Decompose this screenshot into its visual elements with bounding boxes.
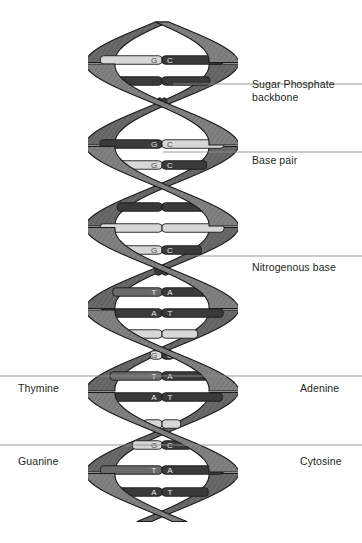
label-base-pair: Base pair <box>252 154 297 167</box>
base-letter-right: T <box>168 488 173 497</box>
label-thymine: Thymine <box>18 382 59 395</box>
base-letter-left: G <box>151 140 157 149</box>
base-letter-right: A <box>167 372 173 381</box>
dna-diagram-canvas: GCGCGCGCTAATGCTAATGCTAAT Sugar Phosphate… <box>0 0 362 543</box>
base-letter-left: T <box>152 372 157 381</box>
base-letter-right: A <box>167 288 173 297</box>
label-cytosine: Cytosine <box>300 455 342 468</box>
base-pair-rung: TA <box>100 466 223 475</box>
base-letter-left: T <box>152 288 157 297</box>
base-half-right <box>162 420 181 429</box>
base-letter-left: G <box>151 441 157 450</box>
base-letter-left: G <box>151 161 157 170</box>
base-letter-right: C <box>167 441 173 450</box>
base-letter-left: A <box>151 309 157 318</box>
base-pair-rung: GC <box>100 56 223 65</box>
base-letter-right: T <box>168 309 173 318</box>
base-pair-rung-unlabeled <box>100 224 224 233</box>
base-letter-right: C <box>167 246 173 255</box>
base-letter-right: C <box>167 56 173 65</box>
base-pair-rung: GC <box>100 140 224 149</box>
base-letter-right: A <box>167 466 173 475</box>
base-letter-left: T <box>152 466 157 475</box>
base-half-right <box>162 330 198 339</box>
base-letter-left: G <box>151 246 157 255</box>
base-letter-right: T <box>168 393 173 402</box>
base-pair-rung: AT <box>101 309 224 318</box>
base-letter-left: A <box>151 488 157 497</box>
label-nitrogenous-base: Nitrogenous base <box>252 261 336 274</box>
backbone-ribbon-segment-front <box>85 474 187 522</box>
base-letter-left: G <box>151 56 157 65</box>
base-letter-right: C <box>167 161 173 170</box>
base-pair-rung: AT <box>102 393 223 402</box>
label-sugar-phosphate-backbone: Sugar Phosphate backbone <box>252 78 335 103</box>
label-adenine: Adenine <box>300 382 339 395</box>
base-letter-left: G <box>151 351 157 360</box>
base-half-left <box>117 203 162 212</box>
base-letter-left: A <box>151 393 157 402</box>
backbone-ribbon-segment-back <box>137 474 239 522</box>
label-guanine: Guanine <box>18 455 58 468</box>
base-letter-right: C <box>167 140 173 149</box>
